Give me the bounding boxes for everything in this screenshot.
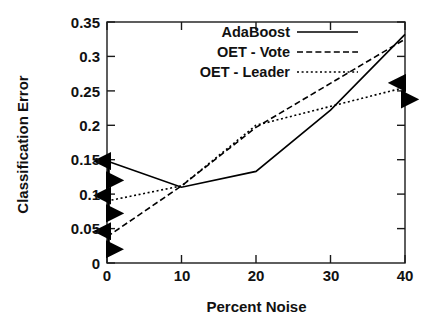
- y-axis-title: Classification Error: [14, 45, 31, 245]
- x-tick-0-wrap: 0: [77, 268, 137, 269]
- x-tick-label: 30: [301, 268, 361, 283]
- x-tick-40-wrap: 40: [375, 268, 435, 269]
- y-tick-label: 0.15: [71, 152, 100, 167]
- legend-label-oet-vote: OET - Vote: [165, 45, 290, 60]
- y-tick-label: 0.1: [79, 187, 100, 202]
- y-tick-label: 0.3: [79, 49, 100, 64]
- y-tick-0.25-wrap: 0.25: [38, 84, 100, 85]
- legend-label-oet-leader: OET - Leader: [155, 65, 290, 80]
- x-tick-label: 20: [226, 268, 286, 283]
- x-tick-label: 10: [152, 268, 212, 283]
- y-tick-label: 0.25: [71, 84, 100, 99]
- y-tick-0.35-wrap: 0.35: [38, 15, 100, 16]
- y-tick-0-wrap: 0: [38, 256, 100, 257]
- legend-label-adaboost: AdaBoost: [165, 25, 290, 40]
- y-tick-0.3-wrap: 0.3: [38, 49, 100, 50]
- y-tick-label: 0.05: [71, 221, 100, 236]
- x-tick-10-wrap: 10: [152, 268, 212, 269]
- y-tick-0.15-wrap: 0.15: [38, 152, 100, 153]
- x-tick-label: 40: [375, 268, 435, 283]
- y-tick-label: 0.2: [79, 118, 100, 133]
- x-axis-title: Percent Noise: [107, 298, 406, 315]
- x-tick-label: 0: [77, 268, 137, 283]
- y-tick-label: 0.35: [71, 15, 100, 30]
- y-tick-0.05-wrap: 0.05: [38, 221, 100, 222]
- y-tick-0.2-wrap: 0.2: [38, 118, 100, 119]
- y-tick-0.1-wrap: 0.1: [38, 187, 100, 188]
- chart-figure: Classification Error Percent Noise 0.35 …: [0, 0, 435, 331]
- series-line-oet-leader: [107, 87, 405, 201]
- x-tick-20-wrap: 20: [226, 268, 286, 269]
- x-tick-30-wrap: 30: [301, 268, 361, 269]
